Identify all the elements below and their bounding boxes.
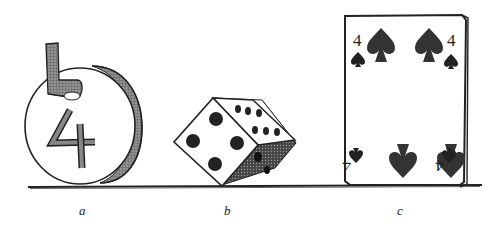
illustration-canvas: 4 4 4 4 [0, 0, 500, 231]
panel-label-a: a [79, 203, 86, 219]
card-rank-top-left: 4 [353, 31, 362, 50]
panel-label-b: b [224, 203, 231, 219]
illustration-stage: 4 4 4 4 a b c [0, 0, 500, 231]
svg-text:4: 4 [342, 156, 351, 175]
coin-figure [25, 43, 142, 184]
panel-label-c: c [397, 203, 403, 219]
die-figure [174, 98, 296, 186]
card-rank-top-right: 4 [447, 31, 456, 50]
playing-card-figure: 4 4 4 4 [342, 15, 468, 187]
svg-text:4: 4 [435, 156, 444, 175]
